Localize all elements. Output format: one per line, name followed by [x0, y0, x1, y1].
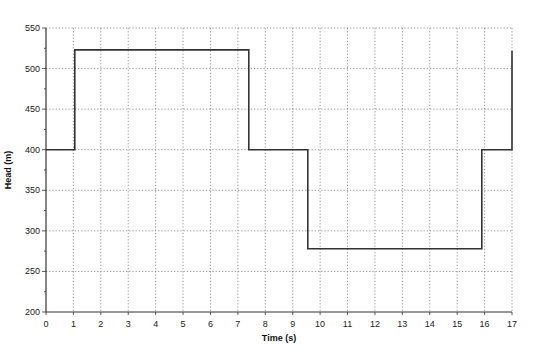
x-tick-label: 13: [397, 319, 407, 329]
x-tick-label: 8: [263, 319, 268, 329]
y-tick-label: 450: [25, 104, 40, 114]
x-tick-label: 6: [208, 319, 213, 329]
x-tick-label: 3: [126, 319, 131, 329]
x-tick-label: 15: [452, 319, 462, 329]
head-series-line: [46, 50, 512, 249]
y-tick-label: 200: [25, 307, 40, 317]
y-tick-label: 250: [25, 266, 40, 276]
x-tick-label: 5: [181, 319, 186, 329]
x-tick-label: 9: [290, 319, 295, 329]
gridlines: [46, 28, 512, 312]
y-axis-tick-labels: 200250300350400450500550: [25, 23, 40, 317]
head-time-chart: 200250300350400450500550 012345678910111…: [0, 0, 533, 359]
x-axis-tick-labels: 01234567891011121314151617: [43, 319, 517, 329]
axes: [42, 28, 512, 315]
y-tick-label: 500: [25, 64, 40, 74]
x-tick-label: 14: [425, 319, 435, 329]
x-tick-label: 12: [370, 319, 380, 329]
x-tick-label: 10: [315, 319, 325, 329]
x-tick-label: 0: [43, 319, 48, 329]
x-tick-label: 2: [98, 319, 103, 329]
y-tick-label: 350: [25, 185, 40, 195]
x-tick-label: 11: [343, 319, 352, 329]
y-tick-label: 300: [25, 226, 40, 236]
x-tick-label: 16: [480, 319, 490, 329]
y-axis-title: Head (m): [3, 151, 13, 190]
x-tick-label: 4: [153, 319, 158, 329]
y-tick-label: 400: [25, 145, 40, 155]
x-tick-label: 17: [507, 319, 517, 329]
x-tick-label: 7: [235, 319, 240, 329]
y-tick-label: 550: [25, 23, 40, 33]
x-axis-title: Time (s): [262, 333, 296, 343]
x-tick-label: 1: [71, 319, 76, 329]
